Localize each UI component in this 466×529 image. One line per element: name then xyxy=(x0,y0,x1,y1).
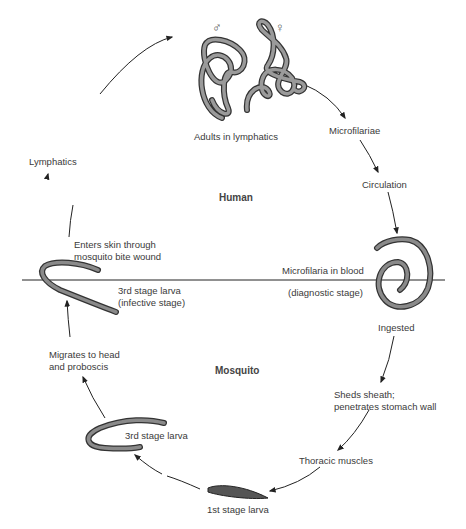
arrow-adults-to-microfilariae xyxy=(303,84,345,118)
label-third-larva: 3rd stage larva xyxy=(125,430,188,442)
arrow-enters-to-lymphatics xyxy=(69,205,73,237)
arrow-circulation-to-blood xyxy=(388,192,397,233)
label-thoracic: Thoracic muscles xyxy=(299,455,373,467)
arrow-lymphatics-to-adults xyxy=(100,37,172,94)
arrow-1st-to-3rd-head xyxy=(135,455,162,474)
label-infective-2: (infective stage) xyxy=(118,297,185,309)
label-adults: Adults in lymphatics xyxy=(194,131,278,143)
label-microfilariae: Microfilariae xyxy=(329,125,380,137)
male-adult-worm-icon xyxy=(201,40,244,118)
label-blood-1: Microfilaria in blood xyxy=(282,265,364,277)
label-first-larva: 1st stage larva xyxy=(207,504,269,516)
label-ingested: Ingested xyxy=(378,322,414,334)
label-migrates-1: Migrates to head xyxy=(49,349,120,361)
label-sheds-1: Sheds sheath; xyxy=(334,389,395,401)
life-cycle-artwork xyxy=(0,0,466,529)
arrow-head-to-lymphatics xyxy=(47,192,73,205)
label-migrates-2: and proboscis xyxy=(49,361,108,373)
region-human-label: Human xyxy=(219,192,253,204)
microfilaria-icon xyxy=(377,239,430,306)
label-sheds-2: penetrates stomach wall xyxy=(334,401,436,413)
arrow-microfilariae-to-circulation xyxy=(360,140,378,172)
arrow-ingested-to-sheds xyxy=(381,336,394,382)
label-enters-2: mosquito bite wound xyxy=(74,251,161,263)
label-blood-2: (diagnostic stage) xyxy=(288,287,363,299)
label-lymphatics: Lymphatics xyxy=(29,156,77,168)
label-enters-1: Enters skin through xyxy=(74,239,156,251)
infective-larva-icon xyxy=(42,263,116,312)
arrow-sheds-to-thoracic xyxy=(338,410,369,450)
region-mosquito-label: Mosquito xyxy=(215,365,259,377)
arrow-to-lymphatics-tip xyxy=(47,174,48,178)
label-circulation: Circulation xyxy=(362,179,407,191)
arrow-3rd-to-migrates xyxy=(83,377,105,418)
male-symbol: ♂ xyxy=(212,20,222,35)
female-symbol: ♀ xyxy=(275,20,285,35)
label-infective-1: 3rd stage larva xyxy=(118,285,181,297)
arrow-1st-to-3rd xyxy=(167,476,200,489)
arrow-migrates-to-infective xyxy=(67,301,70,337)
first-stage-larva-icon xyxy=(208,486,268,499)
arrow-thoracic-to-1st xyxy=(270,467,320,491)
